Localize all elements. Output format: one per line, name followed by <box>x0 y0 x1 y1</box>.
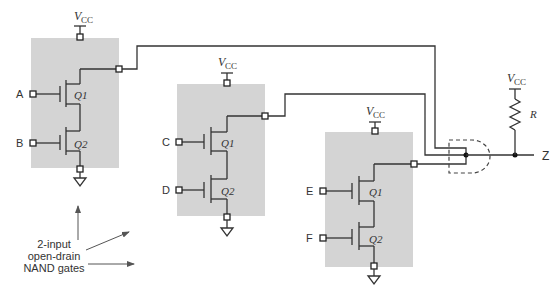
vcc-symbol-2: V CC <box>218 55 237 86</box>
transistor-label-q2: Q2 <box>221 185 235 197</box>
svg-text:CC: CC <box>225 61 237 71</box>
gnd-pin-1 <box>77 166 83 172</box>
pullup-resistor: V CC R <box>507 71 537 155</box>
output-label-z: Z <box>542 149 549 163</box>
annotation-line-1: 2-input <box>37 238 71 250</box>
svg-text:CC: CC <box>514 77 526 87</box>
transistor-label-q2: Q2 <box>74 138 88 150</box>
input-label-b: B <box>16 137 23 149</box>
annotation-line-2: open-drain <box>28 250 81 262</box>
input-label-d: D <box>162 184 170 196</box>
input-pin-a <box>30 91 36 97</box>
svg-text:CC: CC <box>81 15 93 25</box>
gnd-pin-3 <box>371 263 377 269</box>
gate-3-body <box>325 132 413 267</box>
input-label-e: E <box>306 185 313 197</box>
input-label-c: C <box>162 136 170 148</box>
ground-icon <box>368 276 380 284</box>
vcc-symbol-3: V CC <box>366 104 385 134</box>
vcc-symbol-1: V CC <box>74 9 93 40</box>
input-pin-d <box>176 187 182 193</box>
transistor-label-q1: Q1 <box>369 186 382 198</box>
arrow-diagonal-icon <box>86 232 129 250</box>
input-pin-e <box>320 188 326 194</box>
output-pin-3 <box>411 161 417 167</box>
wire-gate3 <box>417 155 466 164</box>
input-pin-f <box>320 235 326 241</box>
transistor-label-q2: Q2 <box>369 233 383 245</box>
wire-gate1 <box>122 46 466 155</box>
implied-and-gate-outline <box>449 140 490 173</box>
transistor-label-q1: Q1 <box>74 89 87 101</box>
resistor-label-r: R <box>529 108 537 120</box>
vcc-pin-3 <box>372 128 378 134</box>
input-pin-c <box>176 139 182 145</box>
input-pin-b <box>30 140 36 146</box>
ground-icon <box>74 178 86 186</box>
output-pin-2 <box>262 113 268 119</box>
input-label-a: A <box>16 88 24 100</box>
resistor-icon <box>510 99 520 130</box>
annotation: 2-input open-drain NAND gates <box>23 206 134 274</box>
input-label-f: F <box>306 232 313 244</box>
annotation-line-3: NAND gates <box>23 262 85 274</box>
nand-gate-2: V CC C Q1 D Q2 <box>162 55 268 236</box>
transistor-label-q1: Q1 <box>221 137 234 149</box>
wired-and-circuit: V CC A Q1 B Q2 <box>0 0 559 296</box>
gnd-pin-2 <box>224 214 230 220</box>
ground-icon <box>221 228 233 236</box>
svg-text:CC: CC <box>373 110 385 120</box>
nand-gate-1: V CC A Q1 B Q2 <box>16 9 122 186</box>
vcc-pin-1 <box>77 34 83 40</box>
vcc-pin-2 <box>224 80 230 86</box>
nand-gate-3: V CC E Q1 F Q2 <box>306 104 417 284</box>
output-pin-1 <box>116 66 122 72</box>
